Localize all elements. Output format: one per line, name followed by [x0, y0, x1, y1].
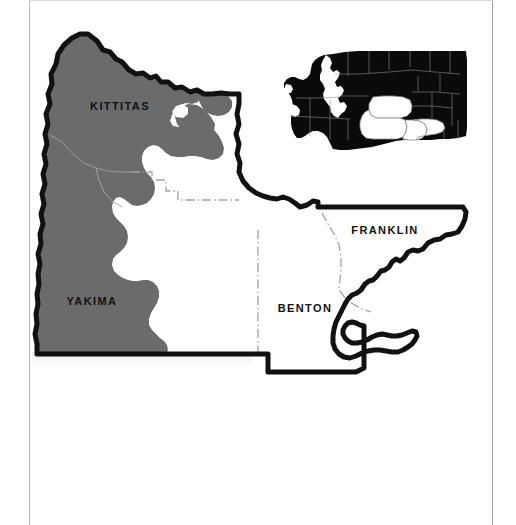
page-canvas: KITTITAS YAKIMA BENTON FRANKLIN: [0, 0, 516, 525]
county-map: KITTITAS YAKIMA BENTON FRANKLIN: [0, 0, 516, 525]
inset-locator-map: [284, 51, 467, 150]
inset-highlight-kittitas: [369, 96, 412, 118]
label-benton: BENTON: [278, 302, 333, 314]
label-franklin: FRANKLIN: [351, 224, 418, 236]
label-yakima: YAKIMA: [67, 295, 118, 307]
label-kittitas: KITTITAS: [90, 100, 150, 112]
